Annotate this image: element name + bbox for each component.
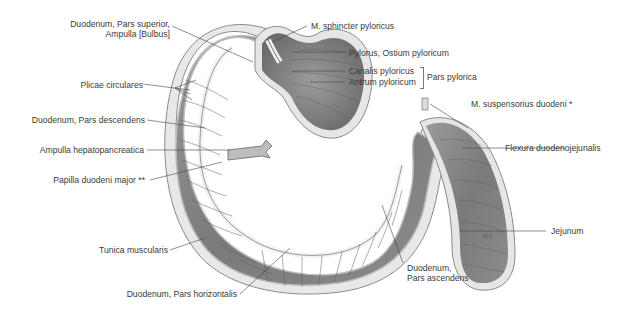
label-m-suspensorius-duodeni: M. suspensorius duodeni *	[471, 99, 572, 109]
label-duodenum-pars-ascendens: Duodenum, Pars ascendens	[407, 263, 469, 283]
bile-duct-stump	[228, 140, 272, 160]
label-plicae-circulares: Plicae circulares	[80, 80, 143, 90]
label-line-2: Pars ascendens	[407, 273, 469, 283]
label-line-1: Duodenum, Pars superior,	[70, 19, 170, 29]
label-canalis-pyloricus: Canalis pyloricus	[349, 66, 414, 76]
label-jejunum: Jejunum	[551, 226, 583, 236]
label-antrum-pyloricum: Antrum pyloricum	[349, 77, 416, 87]
duodenum-illustration: H.S.	[0, 0, 627, 310]
label-pylorus-ostium: Pylorus, Ostium pyloricum	[349, 48, 449, 58]
label-duodenum-pars-superior: Duodenum, Pars superior, Ampulla [Bulbus…	[70, 19, 170, 39]
label-pars-pylorica: Pars pylorica	[427, 72, 477, 82]
label-line-2: Ampulla [Bulbus]	[70, 29, 170, 39]
label-duodenum-pars-descendens: Duodenum, Pars descendens	[32, 115, 145, 125]
label-tunica-muscularis: Tunica muscularis	[99, 245, 168, 255]
label-m-sphincter-pyloricus: M. sphincter pyloricus	[311, 21, 394, 31]
label-ampulla-hepatopancreatica: Ampulla hepatopancreatica	[40, 145, 144, 155]
label-line-1: Duodenum,	[407, 263, 469, 273]
label-papilla-duodeni-major: Papilla duodeni major **	[53, 175, 145, 185]
label-duodenum-pars-horizontalis: Duodenum, Pars horizontalis	[127, 289, 237, 299]
pars-pylorica-bracket	[420, 67, 424, 89]
artist-signature: H.S.	[483, 233, 494, 239]
label-flexura-duodenojejunalis: Flexura duodenojejunalis	[505, 143, 601, 153]
